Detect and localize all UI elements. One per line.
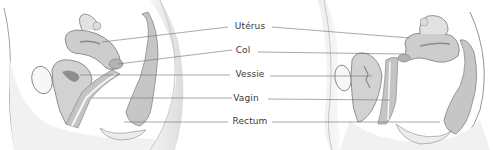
right-pelvis-view [318, 0, 490, 150]
label-uterus: Utérus [234, 21, 266, 31]
label-vagina: Vagin [232, 93, 259, 103]
label-rectum: Rectum [232, 116, 269, 126]
anatomy-diagram: Utérus Col Vessie Vagin Rectum [0, 0, 493, 150]
label-cervix: Col [235, 45, 252, 55]
label-bladder: Vessie [234, 69, 265, 79]
